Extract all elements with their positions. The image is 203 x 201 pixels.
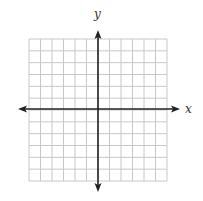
y-axis-label: y — [94, 8, 101, 20]
x-axis-label: x — [185, 103, 192, 115]
coordinate-plane — [0, 0, 203, 201]
